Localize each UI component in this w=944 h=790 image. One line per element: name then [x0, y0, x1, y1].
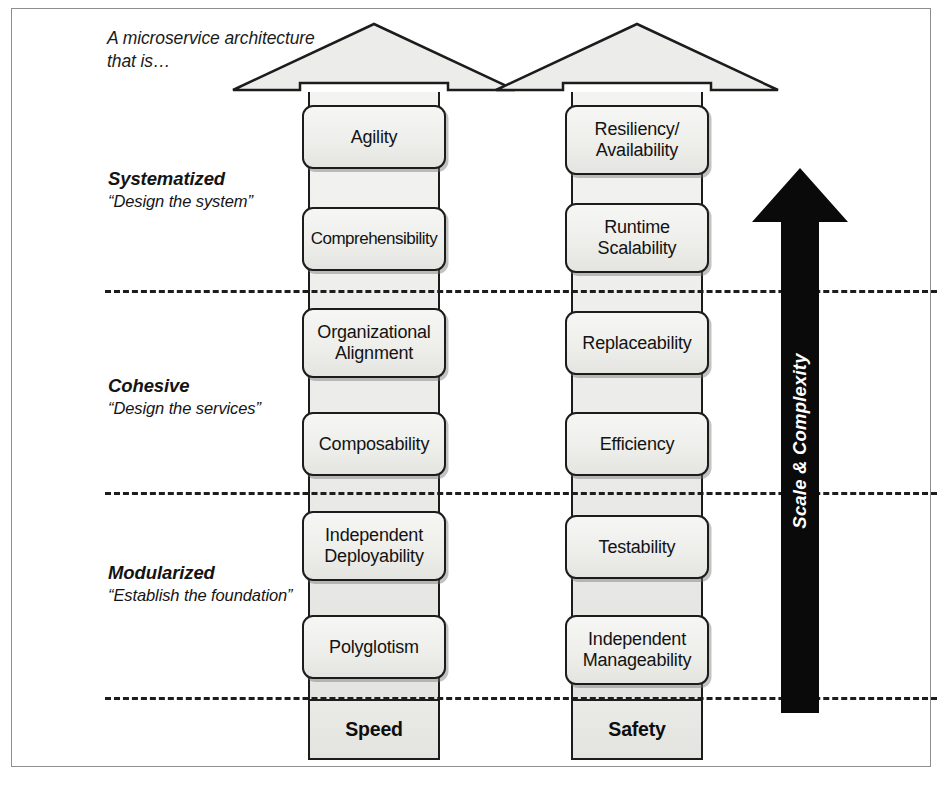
pillar-base-safety: Safety: [571, 699, 703, 760]
capability-box: Runtime Scalability: [565, 203, 709, 273]
capability-box: Replaceability: [565, 311, 709, 375]
capability-box: Agility: [302, 105, 446, 169]
tier-label-modularized: Modularized “Establish the foundation”: [108, 562, 318, 606]
capability-box: Resiliency/ Availability: [565, 105, 709, 175]
capability-box: Comprehensibility: [302, 207, 446, 271]
tier-label-cohesive: Cohesive “Design the services”: [108, 375, 318, 419]
pillar-base-speed: Speed: [308, 699, 440, 760]
capability-box: Efficiency: [565, 412, 709, 476]
capability-box: Polyglotism: [302, 615, 446, 679]
tier-label-systematized: Systematized “Design the system”: [108, 168, 318, 212]
capability-box: Independent Manageability: [565, 615, 709, 685]
figure-canvas: A microservice architecture that is… Sys…: [0, 0, 944, 790]
capability-box: Testability: [565, 515, 709, 579]
capability-box: Organizational Alignment: [302, 308, 446, 378]
tier-subtitle: “Establish the foundation”: [108, 585, 318, 606]
capability-box: Independent Deployability: [302, 511, 446, 581]
tier-title: Cohesive: [108, 375, 318, 396]
tier-subtitle: “Design the services”: [108, 398, 318, 419]
scale-complexity-arrow-icon: [752, 168, 848, 713]
tier-title: Modularized: [108, 562, 318, 583]
tier-title: Systematized: [108, 168, 318, 189]
capability-box: Composability: [302, 412, 446, 476]
tier-subtitle: “Design the system”: [108, 191, 318, 212]
